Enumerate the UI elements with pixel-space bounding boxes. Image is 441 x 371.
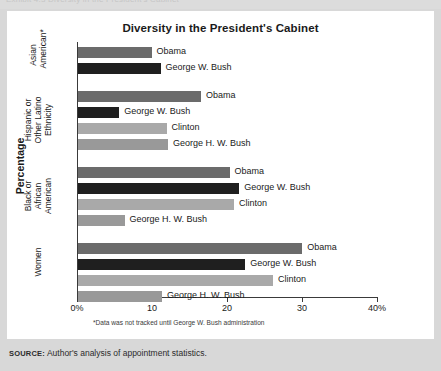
bar-label: George W. Bush xyxy=(124,106,190,116)
bar-label: Clinton xyxy=(172,122,200,132)
bar-row: George W. Bush xyxy=(78,63,378,74)
bar xyxy=(78,123,167,134)
bar-row: Obama xyxy=(78,47,378,58)
group-category-label: Women xyxy=(32,232,42,291)
bar xyxy=(78,63,161,74)
bar-row: George W. Bush xyxy=(78,259,378,270)
bar-label: Clinton xyxy=(239,198,267,208)
bar-row: Obama xyxy=(78,167,378,178)
bar xyxy=(78,167,230,178)
bar-row: Obama xyxy=(78,243,378,254)
clipped-header-text: Exhibit 4.3 Diversity in the President's… xyxy=(6,0,441,4)
bar-label: Obama xyxy=(157,46,187,56)
x-tick-label: 30 xyxy=(297,303,307,313)
bar-row: Clinton xyxy=(78,275,378,286)
clipped-header-strip: Exhibit 4.3 Diversity in the President's… xyxy=(0,0,441,9)
group-category-label: Asian American* xyxy=(27,41,47,68)
source-line: SOURCE: Author's analysis of appointment… xyxy=(9,348,207,358)
bar-label: George W. Bush xyxy=(244,182,310,192)
group-category-label: Black or African American xyxy=(22,166,52,225)
plot-area: Percentage 0%10203040% ObamaGeorge W. Bu… xyxy=(7,42,434,332)
bar xyxy=(78,291,162,302)
bar-row: George H. W. Bush xyxy=(78,215,378,226)
bar-label: George H. W. Bush xyxy=(173,138,251,148)
bar-label: Clinton xyxy=(278,274,306,284)
bar xyxy=(78,243,302,254)
bar xyxy=(78,91,201,102)
bar xyxy=(78,259,245,270)
bar xyxy=(78,199,234,210)
bar xyxy=(78,47,152,58)
group-category-label: Hispanic or Other Latino Ethnicity xyxy=(22,90,52,149)
bar-label: Obama xyxy=(235,166,265,176)
bar-label: George W. Bush xyxy=(250,258,316,268)
bar-row: Clinton xyxy=(78,123,378,134)
chart-title: Diversity in the President's Cabinet xyxy=(7,22,434,34)
bar xyxy=(78,107,119,118)
bar-label: Obama xyxy=(206,90,236,100)
x-tick-label: 10 xyxy=(147,303,157,313)
figure-card: Diversity in the President's Cabinet Per… xyxy=(7,11,434,339)
bar-row: George W. Bush xyxy=(78,107,378,118)
bar-label: George W. Bush xyxy=(166,62,232,72)
source-text: Author's analysis of appointment statist… xyxy=(45,348,207,358)
source-label: SOURCE: xyxy=(9,349,45,358)
bar-row: Clinton xyxy=(78,199,378,210)
bar-row: Obama xyxy=(78,91,378,102)
bar-label: George H. W. Bush xyxy=(130,214,208,224)
bar-label: Obama xyxy=(307,242,337,252)
x-tick-label: 20 xyxy=(222,303,232,313)
bar-row: George H. W. Bush xyxy=(78,291,378,302)
bar-row: George W. Bush xyxy=(78,183,378,194)
bar-label: George H. W. Bush xyxy=(167,290,245,300)
bar xyxy=(78,215,125,226)
bar xyxy=(78,139,168,150)
x-tick-label: 0% xyxy=(70,303,83,313)
bar-row: George H. W. Bush xyxy=(78,139,378,150)
bar xyxy=(78,183,239,194)
bar xyxy=(78,275,273,286)
x-tick-label: 40% xyxy=(368,303,386,313)
chart-footnote: *Data was not tracked until George W. Bu… xyxy=(93,319,265,326)
